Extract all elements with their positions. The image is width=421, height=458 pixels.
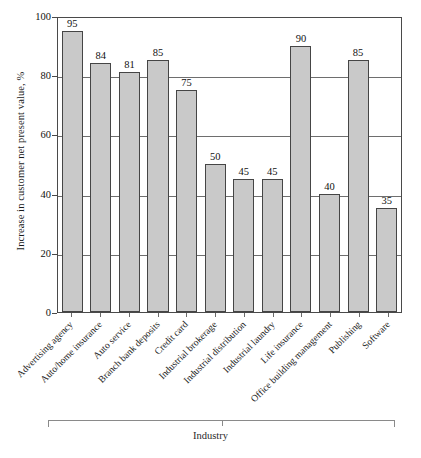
- bar-slot: 45: [229, 18, 258, 312]
- bar-value-label: 81: [124, 58, 135, 71]
- x-axis-title: Industry: [0, 429, 421, 442]
- bar-value-label: 84: [96, 49, 107, 62]
- x-axis-tick-mark: [129, 313, 130, 317]
- x-axis-bracket-center-tick: [222, 421, 223, 426]
- x-axis-tick-mark: [388, 313, 389, 317]
- bar-value-label: 50: [210, 150, 221, 163]
- y-axis-title: Increase in customer net present value, …: [14, 16, 28, 306]
- bar[interactable]: 45: [262, 179, 283, 312]
- bar-slot: 40: [315, 18, 344, 312]
- y-axis-tick-label: 80: [15, 70, 51, 81]
- bar[interactable]: 90: [290, 46, 311, 312]
- bar[interactable]: 81: [119, 72, 140, 312]
- bar-value-label: 75: [181, 76, 192, 89]
- bar-slot: 85: [144, 18, 173, 312]
- bar[interactable]: 84: [90, 63, 111, 312]
- bar-value-label: 85: [153, 46, 164, 59]
- bar-slot: 45: [258, 18, 287, 312]
- bar-value-label: 95: [67, 17, 78, 30]
- bar-slot: 85: [344, 18, 373, 312]
- bar-value-label: 45: [239, 165, 250, 178]
- bar-slot: 95: [58, 18, 87, 312]
- bar-slot: 35: [372, 18, 401, 312]
- x-axis-tick-mark: [359, 313, 360, 317]
- bar[interactable]: 40: [319, 194, 340, 312]
- bar-chart: Increase in customer net present value, …: [0, 0, 421, 458]
- bar-slot: 75: [172, 18, 201, 312]
- bar-slot: 50: [201, 18, 230, 312]
- y-axis-tick-label: 60: [15, 129, 51, 140]
- bar[interactable]: 95: [62, 31, 83, 312]
- y-axis-tick-label: 0: [15, 307, 51, 318]
- x-axis-tick-mark: [301, 313, 302, 317]
- bar-slot: 84: [87, 18, 116, 312]
- x-axis-tick-mark: [71, 313, 72, 317]
- x-axis-tick-mark: [100, 313, 101, 317]
- bar[interactable]: 75: [176, 90, 197, 312]
- bar[interactable]: 85: [348, 60, 369, 312]
- x-axis-tick-mark: [158, 313, 159, 317]
- bar-value-label: 40: [324, 180, 335, 193]
- bar[interactable]: 50: [205, 164, 226, 312]
- bar[interactable]: 85: [147, 60, 168, 312]
- y-axis-tick-label: 100: [15, 11, 51, 22]
- bar-series: 958481857550454590408535: [58, 18, 401, 312]
- bar[interactable]: 35: [376, 208, 397, 312]
- bar-value-label: 45: [267, 165, 278, 178]
- bar-slot: 81: [115, 18, 144, 312]
- bar-value-label: 35: [381, 194, 392, 207]
- plot-area: 958481857550454590408535: [57, 17, 402, 313]
- x-axis-tick-mark: [330, 313, 331, 317]
- x-axis-tick-mark: [215, 313, 216, 317]
- y-axis-tick-mark: [52, 313, 57, 314]
- bar-value-label: 90: [296, 32, 307, 45]
- bar-slot: 90: [287, 18, 316, 312]
- y-axis-tick-label: 20: [15, 248, 51, 259]
- bar-value-label: 85: [353, 46, 364, 59]
- x-axis-tick-mark: [244, 313, 245, 317]
- y-axis-tick-label: 40: [15, 189, 51, 200]
- x-axis-tick-mark: [186, 313, 187, 317]
- x-axis-bracket: [48, 420, 395, 427]
- bar[interactable]: 45: [233, 179, 254, 312]
- x-axis-tick-mark: [273, 313, 274, 317]
